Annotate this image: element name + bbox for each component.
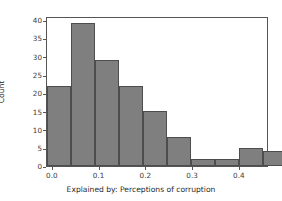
y-axis-tick-label: 35	[33, 35, 42, 42]
histogram-bar	[95, 60, 119, 166]
histogram-figure: 0510152025303540 0.00.10.20.30.4 Count E…	[0, 0, 282, 201]
y-axis-tick-mark	[43, 39, 46, 40]
x-axis-tick-mark	[52, 167, 53, 170]
y-axis-tick-mark	[43, 112, 46, 113]
y-axis-tick-label: 20	[33, 90, 42, 97]
y-axis-tick-mark	[43, 130, 46, 131]
x-axis-tick-mark	[239, 167, 240, 170]
histogram-bar	[191, 159, 215, 166]
x-axis-tick-label: 0.0	[46, 172, 57, 179]
histogram-bars	[47, 18, 267, 166]
y-axis-tick-label: 40	[33, 17, 42, 24]
y-axis-tick-mark	[43, 94, 46, 95]
x-axis-tick-labels: 0.00.10.20.30.4	[46, 172, 268, 184]
x-axis-tick-mark	[99, 167, 100, 170]
x-axis-tick-marks	[46, 167, 268, 170]
x-axis-tick-label: 0.4	[233, 172, 244, 179]
y-axis-tick-label: 15	[33, 109, 42, 116]
y-axis-tick-label: 5	[37, 145, 42, 152]
x-axis-tick-label: 0.3	[186, 172, 197, 179]
x-axis-tick-mark	[145, 167, 146, 170]
plot-area	[46, 17, 268, 167]
y-axis-tick-label: 25	[33, 72, 42, 79]
y-axis-tick-label: 30	[33, 54, 42, 61]
histogram-bar	[215, 159, 239, 166]
x-axis-tick-mark	[192, 167, 193, 170]
histogram-bar	[47, 86, 71, 166]
x-axis-title: Explained by: Perceptions of corruption	[0, 186, 282, 194]
y-axis-tick-label: 10	[33, 127, 42, 134]
histogram-bar	[239, 148, 263, 166]
y-axis-tick-labels: 0510152025303540	[18, 17, 42, 167]
x-axis-tick-label: 0.2	[140, 172, 151, 179]
histogram-bar	[167, 137, 191, 166]
histogram-bar	[71, 23, 95, 166]
y-axis-title: Count	[0, 81, 6, 104]
y-axis-tick-label: 0	[37, 163, 42, 170]
y-axis-tick-mark	[43, 76, 46, 77]
histogram-bar	[119, 86, 143, 166]
histogram-bar	[143, 111, 167, 166]
y-axis-tick-mark	[43, 21, 46, 22]
y-axis-tick-marks	[43, 17, 46, 167]
histogram-bar	[263, 151, 282, 166]
y-axis-tick-mark	[43, 149, 46, 150]
x-axis-tick-label: 0.1	[93, 172, 104, 179]
y-axis-tick-mark	[43, 57, 46, 58]
